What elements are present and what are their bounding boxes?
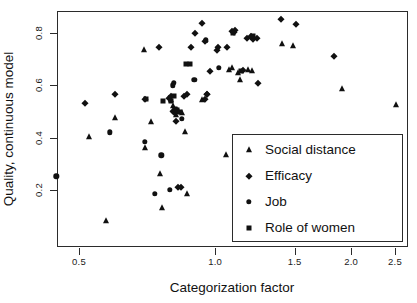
x-axis-tick [395,248,396,255]
y-axis-tick-label: 0.2 [33,183,44,197]
legend-item-role-of-women[interactable]: Role of women [233,215,402,240]
legend-item-job[interactable]: Job [233,189,402,214]
x-axis-tick [215,248,216,255]
x-axis-tick-label: 1.0 [208,256,222,267]
legend-item-social-distance[interactable]: Social distance [233,137,402,162]
legend-marker-circle [233,189,265,214]
legend-item-efficacy[interactable]: Efficacy [233,163,402,188]
x-axis-tick-label: 0.5 [72,256,86,267]
x-axis-tick [351,248,352,255]
legend-label: Social distance [265,143,356,157]
y-axis-tick [50,138,57,139]
y-axis-tick-label: 0.6 [33,78,44,92]
y-axis-tick-label: 0.4 [33,131,44,145]
y-axis-title: Quality, continuous model [1,52,16,206]
legend-marker-diamond [233,163,265,188]
legend: Social distance Efficacy Job Role of wom… [232,134,403,242]
y-axis-tick [50,190,57,191]
x-axis-tick [295,248,296,255]
x-axis-title: Categorization factor [170,280,295,295]
legend-label: Efficacy [265,169,312,183]
legend-label: Job [265,195,287,209]
legend-label: Role of women [265,221,355,235]
legend-marker-triangle [233,137,265,162]
x-axis-tick-label: 1.5 [288,256,302,267]
legend-marker-square [233,215,265,240]
x-axis-tick-label: 2.5 [388,256,402,267]
y-axis-tick [50,85,57,86]
scatter-plot-figure: Quality, continuous model Categorization… [0,0,417,303]
x-axis-tick-label: 2.0 [344,256,358,267]
y-axis-tick-label: 0.8 [33,26,44,40]
x-axis-tick [79,248,80,255]
y-axis-tick [50,33,57,34]
